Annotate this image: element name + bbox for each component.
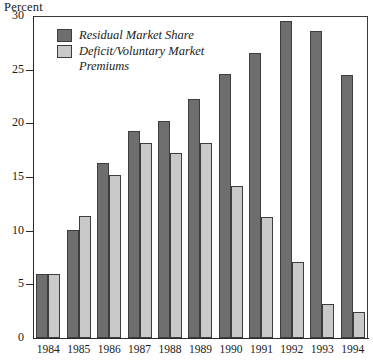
bar-chart: Percent 051015202530 1984198519861987198… (0, 0, 373, 363)
legend-item-2: Deficit/Voluntary Market Premiums (57, 44, 287, 74)
x-label-1993: 1993 (307, 343, 337, 355)
bar-1984-series-1 (36, 274, 48, 338)
bar-1990-series-2 (231, 186, 243, 338)
legend-swatch-light (57, 45, 72, 58)
x-label-1992: 1992 (277, 343, 307, 355)
y-tick-label: 30 (12, 8, 24, 23)
bar-1991-series-1 (249, 53, 261, 339)
y-tick-label: 0 (18, 330, 24, 345)
y-tick-label: 20 (12, 115, 24, 130)
bar-1994-series-1 (341, 75, 353, 338)
x-label-1994: 1994 (338, 343, 368, 355)
x-label-1989: 1989 (185, 343, 215, 355)
bar-1990-series-1 (219, 74, 231, 338)
x-label-1991: 1991 (246, 343, 276, 355)
bar-1993-series-1 (310, 31, 322, 338)
x-axis-line (33, 338, 369, 339)
y-tick-label: 25 (12, 62, 24, 77)
bar-1987-series-1 (128, 131, 140, 338)
bar-1985-series-2 (79, 216, 91, 338)
bar-1988-series-2 (170, 153, 182, 338)
bar-1987-series-2 (140, 143, 152, 338)
bar-1989-series-1 (188, 99, 200, 338)
y-tick-label: 5 (18, 276, 24, 291)
x-label-1990: 1990 (216, 343, 246, 355)
bar-1989-series-2 (200, 143, 212, 338)
bar-1986-series-1 (97, 163, 109, 338)
legend-swatch-dark (57, 29, 72, 42)
x-label-1987: 1987 (124, 343, 154, 355)
chart-legend: Residual Market ShareDeficit/Voluntary M… (57, 28, 287, 75)
bar-1992-series-2 (292, 262, 304, 338)
bar-1991-series-2 (261, 217, 273, 338)
bar-group-1993 (307, 16, 337, 338)
x-label-1984: 1984 (33, 343, 63, 355)
legend-label: Residual Market Share (79, 28, 194, 43)
bar-1994-series-2 (353, 312, 365, 338)
y-tick-label: 15 (12, 169, 24, 184)
bar-1993-series-2 (322, 304, 334, 338)
bar-1988-series-1 (158, 121, 170, 338)
bar-1984-series-2 (48, 274, 60, 338)
bar-group-1994 (338, 16, 368, 338)
x-label-1985: 1985 (63, 343, 93, 355)
legend-item-1: Residual Market Share (57, 28, 287, 43)
bar-1986-series-2 (109, 175, 121, 338)
y-tick-label: 10 (12, 223, 24, 238)
x-label-1988: 1988 (155, 343, 185, 355)
x-label-1986: 1986 (94, 343, 124, 355)
bar-1985-series-1 (67, 230, 79, 338)
legend-label: Deficit/Voluntary Market Premiums (79, 44, 204, 74)
